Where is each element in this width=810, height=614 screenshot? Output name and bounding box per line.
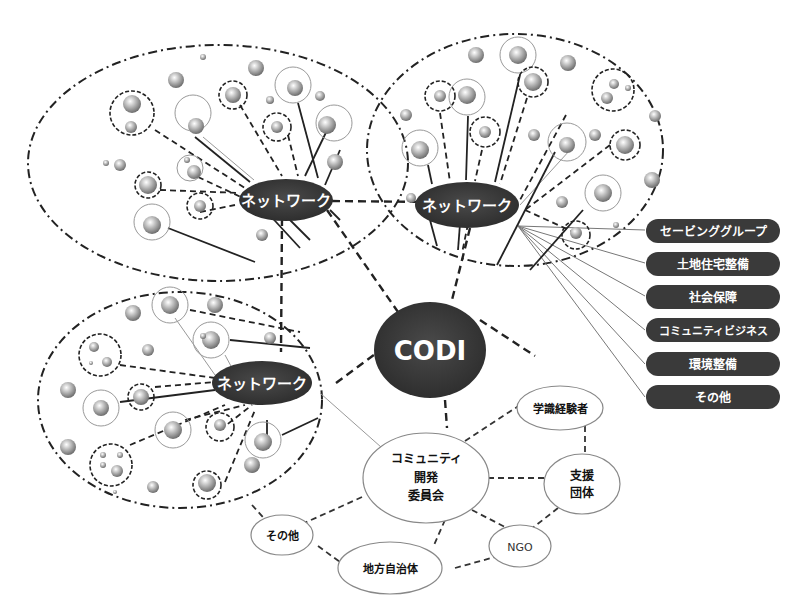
stakeholder-label: 学識経験者: [533, 402, 588, 416]
stakeholder-label-line1: 支援: [569, 468, 595, 483]
activity-pill-social-security[interactable]: 社会保障: [646, 285, 780, 309]
network-label: ネットワーク: [241, 192, 331, 210]
activity-label: 社会保障: [688, 290, 737, 305]
committee-label-line2: 開発: [414, 470, 439, 485]
activity-label: 環境整備: [689, 357, 737, 372]
stakeholder-label: NGO: [507, 541, 533, 554]
stakeholder-label-line2: 団体: [570, 485, 595, 500]
activity-label: 土地住宅整備: [677, 257, 749, 272]
activity-label: コミュニティビジネス: [659, 324, 768, 338]
spokes-top-right: [428, 75, 610, 270]
activity-pill-community-business[interactable]: コミュニティビジネス: [646, 318, 780, 342]
codi-node[interactable]: CODI: [374, 302, 486, 398]
thin-link: [320, 393, 390, 455]
activity-pill-land-housing[interactable]: 土地住宅整備: [646, 252, 780, 276]
stakeholder-ngo[interactable]: NGO: [489, 525, 551, 567]
activity-list: セービンググループ 土地住宅整備 社会保障 コミュニティビジネス 環境整備 その…: [646, 219, 780, 409]
network-node-top-left[interactable]: ネットワーク: [239, 179, 333, 221]
network-diagram: ネットワーク ネットワーク ネットワーク CODI セービンググループ 土地住宅…: [0, 0, 810, 614]
stakeholder-academic[interactable]: 学識経験者: [517, 386, 603, 430]
codi-label: CODI: [394, 336, 466, 366]
activity-connections: [518, 226, 645, 397]
network-node-top-right[interactable]: ネットワーク: [415, 182, 519, 228]
activity-label: その他: [695, 390, 731, 405]
stakeholder-label: その他: [266, 529, 299, 543]
network-node-bottom-left[interactable]: ネットワーク: [212, 361, 312, 405]
network-label: ネットワーク: [217, 375, 307, 393]
committee-label-line3: 委員会: [407, 488, 445, 503]
committee-node[interactable]: コミュニティ 開発 委員会: [363, 433, 489, 523]
activity-pill-other[interactable]: その他: [646, 385, 780, 409]
stakeholder-local-gov[interactable]: 地方自治体: [338, 542, 442, 594]
network-label: ネットワーク: [422, 197, 512, 215]
activity-pill-saving-group[interactable]: セービンググループ: [646, 219, 780, 243]
activity-pill-environment[interactable]: 環境整備: [646, 352, 780, 376]
activity-label: セービンググループ: [660, 224, 768, 239]
stakeholder-other[interactable]: その他: [251, 515, 313, 555]
committee-label-line1: コミュニティ: [391, 452, 462, 466]
spokes-top-left: [155, 103, 340, 262]
stakeholder-support-org[interactable]: 支援 団体: [544, 454, 620, 514]
stakeholder-label: 地方自治体: [363, 562, 419, 576]
